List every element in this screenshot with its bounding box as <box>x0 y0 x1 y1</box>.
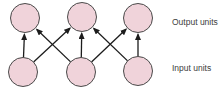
diagram-canvas: Output units Input units <box>0 0 223 90</box>
network-diagram-svg: Output units Input units <box>0 0 223 90</box>
output-unit-node <box>11 4 40 33</box>
input-unit-node <box>124 57 153 86</box>
connection-arrow <box>24 35 25 58</box>
output-unit-node <box>124 4 153 33</box>
output-units-label: Output units <box>172 17 218 27</box>
connection-arrow <box>37 30 71 62</box>
input-units-label: Input units <box>172 63 211 73</box>
output-unit-node <box>68 3 97 32</box>
input-unit-node <box>67 58 96 87</box>
connection-arrow <box>92 29 127 62</box>
nodes-group <box>9 3 153 87</box>
input-unit-node <box>9 58 38 87</box>
connection-arrow <box>34 28 70 62</box>
